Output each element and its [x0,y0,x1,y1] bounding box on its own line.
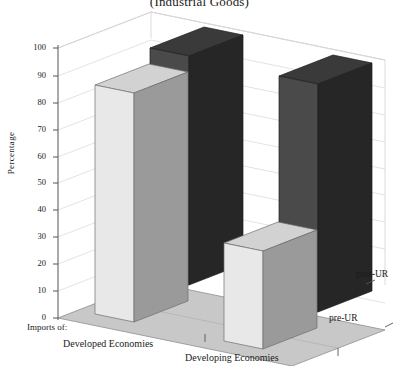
y-tick-70: 70 [20,124,46,134]
y-tick-90: 90 [20,70,46,80]
y-tick-0: 0 [20,312,46,322]
bar-pre-ur-developing [224,222,317,349]
y-tick-20: 20 [20,258,46,268]
category-label-developed: Developed Economies [63,338,153,349]
series-label-pre-ur: pre-UR [329,313,358,323]
y-tick-40: 40 [20,204,46,214]
chart-canvas [0,0,399,366]
x-axis-prefix-label: Imports of: [27,322,67,332]
y-tick-100: 100 [20,42,46,52]
y-tick-60: 60 [20,151,46,161]
y-tick-80: 80 [20,97,46,107]
y-tick-30: 30 [20,231,46,241]
category-label-developing: Developing Economies [185,352,279,363]
y-tick-50: 50 [20,177,46,187]
y-tick-10: 10 [20,285,46,295]
series-label-post-ur: post-UR [356,269,388,279]
bar-pre-ur-developed [95,64,188,322]
y-axis-title: Percentage [6,123,16,183]
chart-figure: (Industrial Goods) [0,0,399,366]
y-axis [53,45,58,320]
